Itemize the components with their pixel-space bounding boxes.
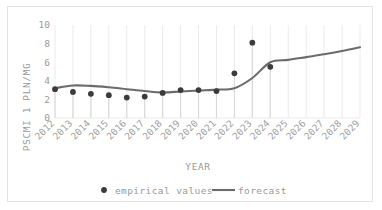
forecast-line <box>55 47 360 92</box>
chart-frame: PSCMI 1 PLN/MG 0246810 20122013201420152… <box>7 6 373 202</box>
data-point <box>232 70 238 76</box>
x-tick-label: 2018 <box>140 117 164 141</box>
data-point <box>124 95 130 101</box>
x-tick-label: 2014 <box>68 117 92 141</box>
data-point <box>142 94 148 100</box>
x-tick-label: 2012 <box>32 118 56 142</box>
x-tick-label: 2021 <box>194 117 218 141</box>
x-tick-label: 2022 <box>212 118 236 142</box>
data-point <box>249 40 255 46</box>
y-axis-ticks: 0246810 <box>39 19 51 123</box>
x-tick-label: 2026 <box>284 117 308 141</box>
legend-item-forecast: forecast <box>238 185 287 196</box>
x-axis-ticks: 2012201320142015201620172018201920202021… <box>32 117 361 141</box>
x-tick-label: 2016 <box>104 117 128 141</box>
y-tick-label: 4 <box>44 75 50 86</box>
y-tick-label: 8 <box>44 38 50 49</box>
data-point <box>70 89 76 95</box>
data-point <box>88 91 94 97</box>
y-tick-label: 2 <box>44 94 50 105</box>
y-axis-title: PSCMI 1 PLN/MG <box>21 63 32 151</box>
x-tick-label: 2029 <box>337 117 361 141</box>
data-point <box>106 92 112 98</box>
x-tick-label: 2015 <box>86 118 110 142</box>
data-point <box>178 87 184 93</box>
y-tick-label: 6 <box>44 57 50 68</box>
x-tick-label: 2020 <box>176 117 200 141</box>
dot-marker-icon <box>101 187 107 193</box>
gridlines <box>55 25 360 118</box>
data-point <box>267 64 273 70</box>
data-point <box>52 86 58 92</box>
legend-item-empirical-values: empirical values <box>115 185 213 196</box>
x-tick-label: 2028 <box>320 117 344 141</box>
data-point <box>214 88 220 94</box>
legend: empirical values forecast <box>101 185 287 196</box>
x-axis-title: YEAR <box>185 161 210 172</box>
chart-canvas: PSCMI 1 PLN/MG 0246810 20122013201420152… <box>8 7 374 203</box>
x-tick-label: 2025 <box>266 118 290 142</box>
data-point <box>196 87 202 93</box>
x-tick-label: 2013 <box>50 118 74 142</box>
x-tick-label: 2023 <box>230 118 254 142</box>
data-point <box>160 90 166 96</box>
x-tick-label: 2024 <box>248 117 272 141</box>
x-tick-label: 2019 <box>158 117 182 141</box>
x-tick-label: 2017 <box>122 118 146 142</box>
x-tick-label: 2027 <box>302 118 326 142</box>
y-tick-label: 10 <box>39 19 51 30</box>
chart-svg: PSCMI 1 PLN/MG 0246810 20122013201420152… <box>8 7 374 203</box>
